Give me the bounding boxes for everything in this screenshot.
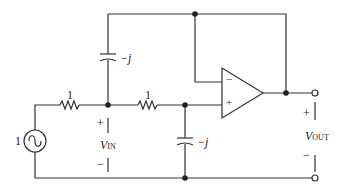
circuit-diagram: 1 1 1 −j −j − + + VIN − + VOUT − — [0, 0, 342, 192]
c1-label: −j — [120, 52, 131, 64]
source-label: 1 — [15, 135, 21, 147]
junction-dot-plus — [182, 102, 188, 108]
output-terminal-bottom — [312, 175, 318, 181]
vin-subscript: IN — [107, 142, 115, 151]
resistor-r1 — [60, 101, 79, 109]
c2-label: −j — [197, 136, 208, 148]
output-terminal-top — [312, 90, 318, 96]
minus-input-wire — [195, 14, 222, 82]
sine-wave-icon — [29, 136, 41, 147]
vout-label: VOUT — [305, 130, 329, 142]
vin-plus: + — [97, 117, 104, 129]
junction-dot-output — [283, 90, 289, 96]
source-top-wire — [35, 105, 60, 130]
vout-plus: + — [303, 107, 310, 119]
junction-dot-top — [192, 11, 198, 17]
r2-label: 1 — [145, 89, 151, 101]
ground-wire — [35, 152, 312, 178]
resistor-r2 — [138, 101, 157, 109]
junction-dot-ground — [182, 175, 188, 181]
opamp-plus-label: + — [226, 97, 232, 108]
vout-minus: − — [303, 149, 310, 161]
vin-label: VIN — [100, 139, 116, 151]
r1-label: 1 — [67, 89, 73, 101]
vin-minus: − — [97, 158, 104, 170]
top-wire — [108, 14, 286, 93]
vout-subscript: OUT — [312, 133, 328, 142]
junction-dot-vin — [105, 102, 111, 108]
opamp-minus-label: − — [226, 74, 232, 85]
circuit-schematic — [0, 0, 342, 192]
